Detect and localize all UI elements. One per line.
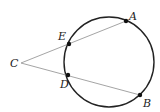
label-D: D (59, 78, 69, 91)
secant-CB (21, 63, 140, 95)
point-A (124, 19, 128, 23)
point-E (67, 42, 71, 46)
point-D (66, 73, 70, 77)
label-C: C (10, 57, 19, 70)
secant-CA (21, 21, 126, 63)
label-E: E (57, 30, 66, 43)
secant-diagram: C E A D B (0, 0, 160, 112)
label-A: A (128, 10, 137, 23)
label-B: B (142, 97, 151, 110)
point-B (138, 93, 142, 97)
